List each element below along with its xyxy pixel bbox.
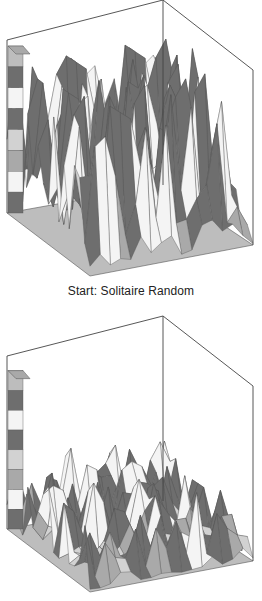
surface-plot-end (0, 312, 262, 601)
surface-plot-start (0, 0, 262, 285)
surface-plot-start-canvas (0, 0, 262, 285)
caption-start-solitaire-random: Start: Solitaire Random (0, 284, 262, 298)
surface-plot-end-canvas (0, 312, 262, 601)
